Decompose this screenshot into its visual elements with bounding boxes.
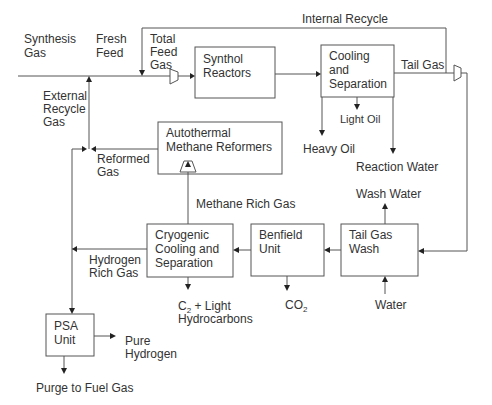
tail-gas-label: Tail Gas	[401, 58, 444, 72]
hydrogen-rich-gas-label-1: Hydrogen	[89, 253, 141, 267]
methane-rich-gas-label: Methane Rich Gas	[196, 197, 295, 211]
unit-benfield: Benfield Unit	[251, 224, 324, 276]
arrow-reaction-water	[390, 148, 396, 154]
tail-gas-wash-label-1: Tail Gas	[349, 228, 392, 242]
c2-light-hc-label-2: Hydrocarbons	[178, 312, 253, 326]
co2-prefix: CO	[285, 298, 303, 312]
psa-label-1: PSA	[54, 319, 78, 333]
cooling-separation-label-2: and	[329, 63, 349, 77]
synthesis-gas-label-1: Synthesis	[24, 32, 76, 46]
arrow-into-cooling	[316, 71, 321, 77]
arrow-purge	[61, 368, 67, 374]
cryogenic-label-3: Separation	[155, 256, 213, 270]
pure-hydrogen-label-2: Hydrogen	[125, 347, 177, 361]
wash-water-label: Wash Water	[356, 187, 421, 201]
hydrogen-rich-gas-label-2: Rich Gas	[89, 266, 138, 280]
total-feed-gas-label-1: Total	[150, 32, 175, 46]
arrow-c2	[185, 284, 191, 290]
unit-synthol-reactors: Synthol Reactors	[195, 47, 275, 98]
autothermal-reformers-label-2: Methane Reformers	[166, 140, 272, 154]
arrow-co2	[284, 285, 290, 291]
total-feed-gas-label-3: Gas	[150, 58, 172, 72]
co2-label: CO2	[285, 298, 308, 314]
arrow-wash-water	[382, 203, 388, 209]
synthesis-gas-label-2: Gas	[24, 46, 46, 60]
reaction-water-label: Reaction Water	[356, 160, 438, 174]
fresh-feed-label-2: Feed	[96, 46, 123, 60]
arrow-pure-hydrogen	[110, 333, 116, 339]
unit-cryogenic: Cryogenic Cooling and Separation	[147, 224, 233, 277]
synthol-reactors-label-1: Synthol	[203, 52, 243, 66]
external-recycle-label-3: Gas	[43, 115, 65, 129]
cooling-separation-label-3: Separation	[329, 77, 387, 91]
psa-label-2: Unit	[54, 333, 76, 347]
unit-tail-gas-wash: Tail Gas Wash	[341, 224, 418, 276]
cryogenic-label-1: Cryogenic	[155, 228, 209, 242]
arrow-into-wash	[418, 248, 424, 254]
c2-prefix: C	[178, 299, 187, 313]
reformed-gas-label-1: Reformed	[97, 152, 150, 166]
unit-cooling-separation: Cooling and Separation	[321, 45, 394, 97]
external-recycle-label-1: External	[43, 89, 87, 103]
co2-subscript: 2	[303, 305, 308, 314]
arrow-heavy-oil	[319, 130, 325, 136]
tail-gas-compressor-icon	[454, 65, 461, 81]
tail-gas-wash-label-2: Wash	[349, 242, 379, 256]
unit-psa: PSA Unit	[46, 314, 94, 356]
arrow-into-benfield	[324, 247, 330, 253]
internal-recycle-label: Internal Recycle	[302, 12, 388, 26]
arrow-external-recycle	[86, 76, 92, 82]
water-label: Water	[375, 298, 407, 312]
fresh-feed-label-1: Fresh	[96, 32, 127, 46]
external-recycle-label-2: Recycle	[43, 102, 86, 116]
cryogenic-label-2: Cooling and	[155, 242, 219, 256]
arrow-h2-rich-gas	[72, 246, 77, 252]
pure-hydrogen-label-1: Pure	[125, 334, 151, 348]
unit-autothermal-reformers: Autothermal Methane Reformers	[158, 122, 282, 174]
arrow-into-cryo	[233, 247, 239, 253]
c2-suffix: + Light	[191, 299, 231, 313]
arrow-light-oil	[354, 104, 360, 110]
arrow-reformed-gas	[91, 146, 96, 152]
arrow-internal-recycle	[139, 70, 145, 76]
light-oil-label: Light Oil	[340, 113, 380, 125]
arrow-into-synthol	[190, 73, 195, 79]
benfield-label-2: Unit	[259, 242, 281, 256]
purge-fuel-gas-label: Purge to Fuel Gas	[36, 381, 133, 395]
process-flow-diagram: Synthol Reactors Cooling and Separation …	[0, 0, 492, 405]
heavy-oil-label: Heavy Oil	[303, 142, 355, 156]
synthol-reactors-label-2: Reactors	[203, 66, 251, 80]
total-feed-gas-label-2: Feed	[150, 45, 177, 59]
arrow-water	[382, 276, 388, 282]
cooling-separation-label-1: Cooling	[329, 49, 370, 63]
arrow-h2-junction	[82, 146, 87, 152]
benfield-label-1: Benfield	[259, 228, 302, 242]
autothermal-reformers-label-1: Autothermal	[166, 126, 231, 140]
reformed-gas-label-2: Gas	[97, 165, 119, 179]
arrow-into-psa	[69, 308, 75, 314]
